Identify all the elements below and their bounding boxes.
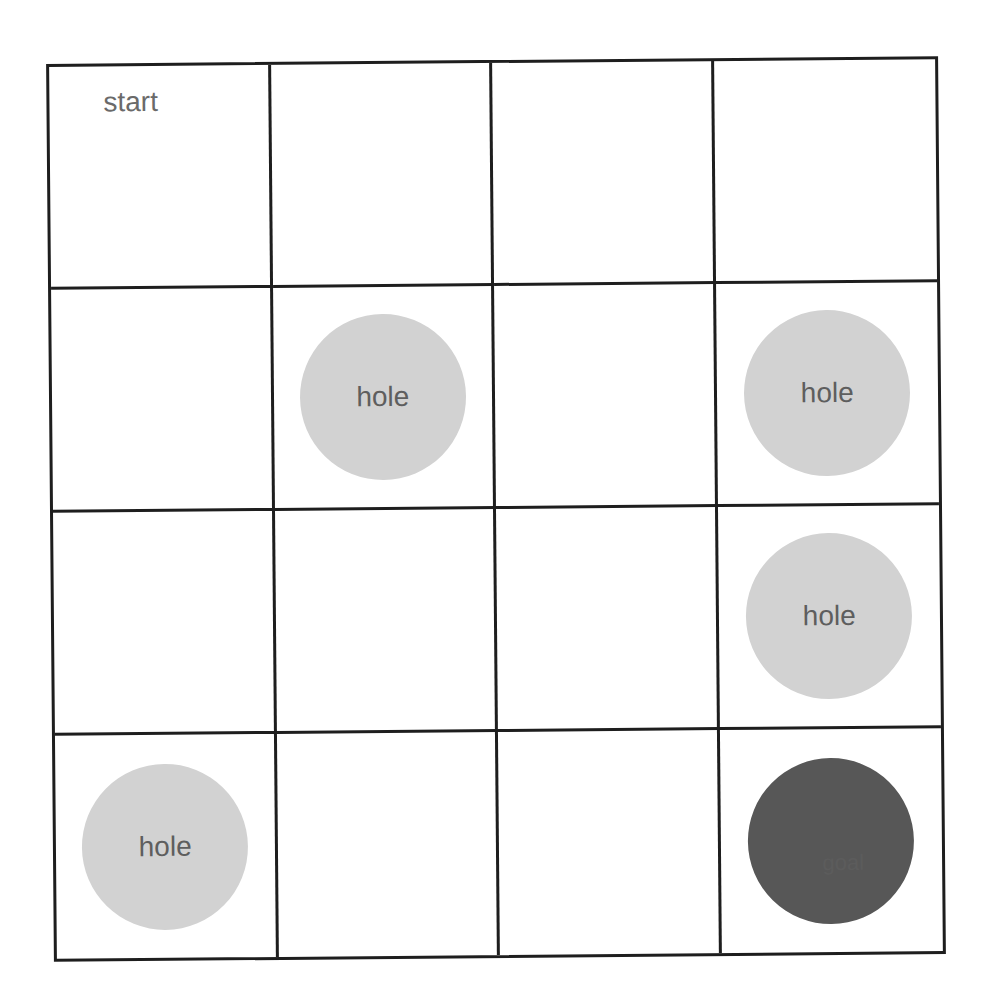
goal-label: goal [822, 849, 864, 875]
hole-label: hole [356, 381, 409, 413]
hole-label: hole [803, 600, 856, 632]
hole-label: hole [801, 377, 854, 409]
cell-1-2 [494, 284, 717, 509]
hole-circle-icon: hole [745, 532, 912, 699]
hole-label: hole [139, 830, 192, 862]
goal-circle-icon: goal [747, 757, 914, 924]
cell-2-0 [53, 511, 276, 736]
cell-1-1-hole: hole [273, 286, 496, 511]
cell-3-2 [498, 730, 721, 955]
hole-circle-icon: hole [744, 309, 911, 476]
hole-circle-icon: hole [81, 763, 248, 930]
cell-1-3-hole: hole [716, 282, 939, 507]
cell-0-2 [492, 61, 715, 286]
cell-3-0-hole: hole [55, 734, 278, 959]
cell-0-0-start: start [49, 65, 272, 290]
cell-2-1 [275, 509, 498, 734]
hole-circle-icon: hole [299, 313, 466, 480]
start-label: start [103, 86, 158, 118]
cell-2-2 [496, 507, 719, 732]
cell-1-0 [51, 288, 274, 513]
cell-2-3-hole: hole [717, 505, 940, 730]
cell-3-3-goal: goal [719, 728, 942, 953]
frozen-lake-grid: start hole hole hole hole goal [46, 56, 946, 962]
cell-0-1 [271, 63, 494, 288]
cell-3-1 [276, 732, 499, 957]
cell-0-3 [714, 59, 937, 284]
